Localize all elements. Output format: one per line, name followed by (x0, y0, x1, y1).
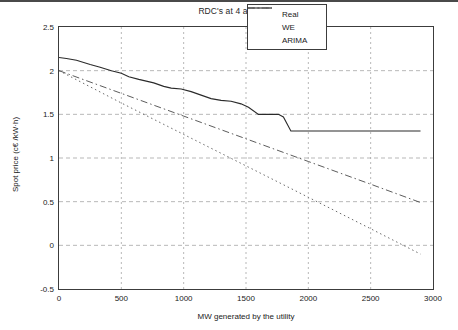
x-tick-label: 1000 (175, 294, 193, 303)
legend-item-we: WE (252, 21, 322, 34)
y-axis-label: Spot price (c€ /kW·h) (2, 0, 16, 330)
x-axis-ticks: 050010001500200025003000 (58, 293, 434, 307)
y-tick-label: 1 (50, 154, 54, 163)
x-tick-label: 1500 (237, 294, 255, 303)
y-tick-label: 2 (50, 66, 54, 75)
y-tick-label: 2.5 (43, 23, 54, 32)
x-tick-label: 0 (57, 294, 61, 303)
chart-figure: RDC's at 4 a.m. Spot price (c€ /kW·h) 2.… (0, 0, 458, 330)
x-tick-label: 2000 (299, 294, 317, 303)
series-line-we (59, 71, 421, 203)
x-tick-label: 3000 (424, 294, 442, 303)
y-axis-ticks: 2.521.510.50-0.5 (18, 26, 54, 290)
chart-title: RDC's at 4 a.m. (0, 6, 458, 16)
y-tick-label: 0.5 (43, 197, 54, 206)
series-line-arima (59, 71, 421, 254)
top-rule-divider (0, 0, 458, 2)
y-tick-label: 0 (50, 241, 54, 250)
legend-label-arima: ARIMA (282, 34, 307, 47)
y-tick-label: -0.5 (40, 285, 54, 294)
y-tick-label: 1.5 (43, 110, 54, 119)
plot-canvas (59, 27, 433, 289)
plot-area (58, 26, 434, 290)
legend-swatch-arima (252, 38, 276, 44)
legend-swatch-we (252, 25, 276, 31)
x-tick-label: 500 (115, 294, 128, 303)
legend-label-real: Real (282, 8, 298, 21)
x-axis-label: MW generated by the utility (58, 312, 434, 321)
legend-item-arima: ARIMA (252, 34, 322, 47)
x-tick-label: 2500 (362, 294, 380, 303)
legend-swatch-real (252, 12, 276, 18)
legend-label-we: WE (282, 21, 295, 34)
series-line-real (59, 58, 421, 131)
chart-legend: Real WE ARIMA (247, 4, 327, 50)
